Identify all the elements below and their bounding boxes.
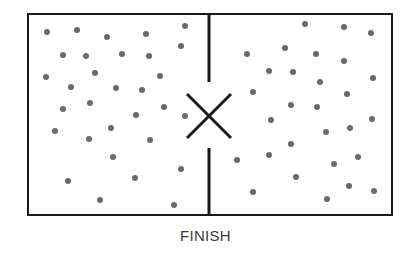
particle-dot: [178, 166, 184, 172]
particle-dot: [147, 137, 153, 143]
particle-dot: [97, 197, 103, 203]
particle-dot: [178, 43, 184, 49]
particle-dot: [268, 117, 274, 123]
particle-dot: [171, 202, 177, 208]
particle-dot: [104, 34, 110, 40]
particle-dot: [302, 21, 308, 27]
particle-dot: [44, 29, 50, 35]
particle-dot: [317, 79, 323, 85]
particle-dot: [139, 87, 145, 93]
particle-dot: [371, 188, 377, 194]
diagram-caption: FINISH: [0, 227, 411, 244]
particle-dot: [182, 113, 188, 119]
particle-dot: [288, 141, 294, 147]
particle-dot: [288, 102, 294, 108]
particle-dot: [133, 112, 139, 118]
particle-dot: [157, 73, 163, 79]
particle-dot: [244, 51, 250, 57]
particle-dot: [250, 189, 256, 195]
x-mark-icon: [187, 94, 231, 138]
particle-dot: [323, 129, 329, 135]
particle-dot: [346, 183, 352, 189]
particle-dot: [92, 70, 98, 76]
particle-dot: [132, 175, 138, 181]
particle-dot: [250, 89, 256, 95]
particle-dot: [282, 45, 288, 51]
particle-dot: [341, 58, 347, 64]
left-chamber-particles: [43, 23, 188, 208]
particle-dot: [314, 104, 320, 110]
particle-dot: [86, 136, 92, 142]
particle-dot: [347, 125, 353, 131]
particle-dot: [234, 157, 240, 163]
particle-dot: [313, 51, 319, 57]
particle-dot: [146, 53, 152, 59]
particle-dot: [324, 196, 330, 202]
particle-dot: [87, 100, 93, 106]
particle-dot: [60, 106, 66, 112]
particle-dot: [355, 154, 361, 160]
particle-dot: [113, 85, 119, 91]
particle-dot: [368, 30, 374, 36]
particle-dot: [43, 74, 49, 80]
particle-dot: [161, 104, 167, 110]
particle-dot: [143, 31, 149, 37]
particle-dot: [110, 154, 116, 160]
particle-dot: [68, 84, 74, 90]
particle-dot: [266, 68, 272, 74]
particle-dot: [370, 75, 376, 81]
right-chamber-particles: [234, 21, 377, 202]
particle-dot: [369, 116, 375, 122]
particle-dot: [74, 27, 80, 33]
particle-dot: [83, 53, 89, 59]
particle-dot: [293, 174, 299, 180]
particle-dot: [344, 91, 350, 97]
particle-dot: [119, 51, 125, 57]
particle-dot: [108, 125, 114, 131]
particle-dot: [290, 69, 296, 75]
particle-dot: [266, 152, 272, 158]
particle-dot: [65, 178, 71, 184]
diffusion-diagram: [0, 0, 411, 256]
particle-dot: [52, 128, 58, 134]
particle-dot: [331, 161, 337, 167]
particle-dot: [341, 24, 347, 30]
particle-dot: [182, 23, 188, 29]
particle-dot: [60, 52, 66, 58]
